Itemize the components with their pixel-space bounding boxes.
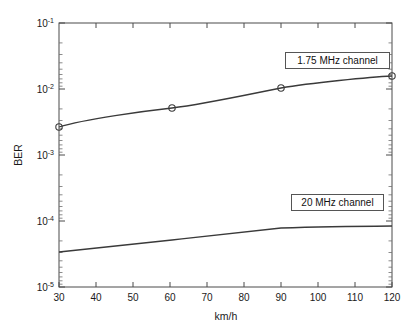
x-axis-tick-labels: 30 40 50 60 70 80 90 100 110 120 (53, 292, 400, 303)
x-axis-title: km/h (215, 310, 238, 322)
x-tick-label-90: 90 (275, 292, 287, 303)
annotation-20mhz-channel[interactable]: 20 MHz channel (292, 195, 384, 211)
ber-vs-speed-chart: 10-1 10-2 10-3 10-4 10-5 30 40 50 60 70 … (0, 0, 416, 332)
y-tick-label-3: 10-3 (37, 149, 54, 161)
x-tick-label-110: 110 (347, 292, 363, 303)
figure-container: 10-1 10-2 10-3 10-4 10-5 30 40 50 60 70 … (0, 0, 416, 332)
y-tick-exponent-5: -5 (48, 281, 54, 288)
y-tick-exponent-1: -1 (48, 17, 54, 24)
x-tick-label-120: 120 (384, 292, 401, 303)
y-axis-minor-ticks (59, 43, 392, 284)
y-tick-exponent-3: -3 (48, 149, 54, 156)
y-axis-title: BER (12, 144, 24, 166)
x-tick-label-40: 40 (90, 292, 102, 303)
annotation-label-20mhz: 20 MHz channel (301, 197, 373, 208)
x-tick-label-80: 80 (238, 292, 250, 303)
x-tick-label-60: 60 (164, 292, 176, 303)
series-1.75mhz-channel (56, 73, 395, 130)
series-1.75mhz-line (59, 76, 392, 127)
x-tick-label-70: 70 (201, 292, 213, 303)
x-tick-label-100: 100 (310, 292, 327, 303)
y-tick-exponent-4: -4 (48, 215, 54, 222)
x-tick-label-50: 50 (127, 292, 139, 303)
y-tick-label-5: 10-5 (37, 281, 54, 293)
annotation-1.75mhz-channel[interactable]: 1.75 MHz channel (286, 53, 390, 69)
y-tick-label-2: 10-2 (37, 83, 54, 95)
y-tick-exponent-2: -2 (48, 83, 54, 90)
x-tick-label-30: 30 (53, 292, 65, 303)
series-20mhz-line (59, 226, 392, 252)
series-20mhz-channel (59, 226, 392, 252)
y-tick-label-1: 10-1 (37, 17, 54, 29)
y-tick-label-4: 10-4 (37, 215, 54, 227)
annotation-label-1.75mhz: 1.75 MHz channel (297, 55, 378, 66)
y-axis-tick-labels: 10-1 10-2 10-3 10-4 10-5 (37, 17, 54, 293)
